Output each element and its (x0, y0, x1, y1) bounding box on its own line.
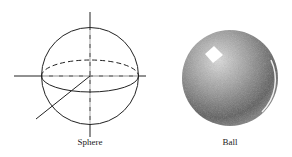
sphere-label: Sphere (78, 137, 103, 147)
sphere-figure (14, 12, 146, 137)
ball-label: Ball (223, 137, 238, 147)
diagram-canvas (0, 0, 292, 157)
ball-figure (182, 30, 278, 126)
diagonal-axis (36, 76, 90, 119)
